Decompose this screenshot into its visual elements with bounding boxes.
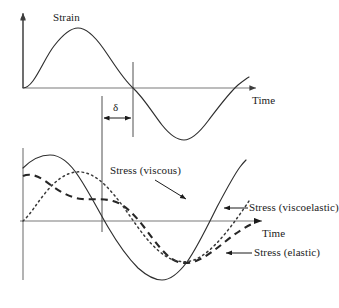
viscous-callout-arrow	[155, 180, 186, 199]
stress-viscous-label: Stress (viscous)	[110, 165, 181, 176]
stress-viscoelastic-label: Stress (viscoelastic)	[249, 202, 339, 213]
time-axis-label-bottom: Time	[262, 228, 285, 239]
delta-label: δ	[113, 102, 118, 113]
stress-elastic-label: Stress (elastic)	[254, 247, 320, 258]
strain-axis-label: Strain	[53, 12, 80, 23]
stress-elastic-curve	[23, 175, 252, 263]
strain-panel	[23, 13, 256, 162]
time-axis-label-top: Time	[252, 95, 275, 106]
strain-curve	[23, 28, 249, 140]
